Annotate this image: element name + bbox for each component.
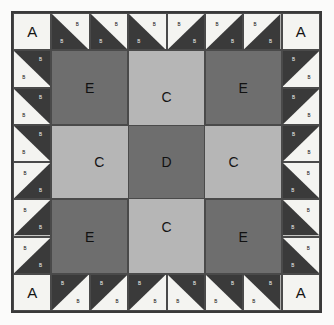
quilt-block-diagram: CCCCDAEBBBBBBBBBBBBAEBBBBBBBBBBBBAEBBBBB… [11,11,322,313]
hst-label-dark: B [100,281,103,286]
hst-label-dark: B [292,95,295,100]
hst-top-left-col-1: BB [13,50,51,87]
hst-label-dark: B [99,39,102,44]
hst-bottom-left-col-3: BB [13,237,51,274]
hst-label-light: B [76,22,79,27]
hst-label-dark: B [193,281,196,286]
hst-top-left-row-3: BB [128,13,166,50]
hst-bottom-right-row-3: BB [243,274,281,311]
patch-label: E [239,81,248,95]
hst-bottom-right-row-2: BB [205,274,243,311]
patch-label: E [85,81,94,95]
patch-square-a-top-left: A [13,13,51,50]
hst-label-dark: B [291,188,294,193]
hst-label-dark: B [61,281,64,286]
hst-bottom-right-col-3: BB [282,237,320,274]
hst-top-right-col-1: BB [282,50,320,87]
hst-label-light: B [24,171,27,176]
hst-label-light: B [114,22,117,27]
patch-square-e-top-right: E [205,50,282,125]
patch-label: E [85,230,94,244]
patch-label: A [296,285,306,300]
hst-bottom-right-row-1: BB [167,274,205,311]
hst-label-light: B [115,299,118,304]
hst-top-right-col-2: BB [282,88,320,125]
hst-label-light: B [22,150,25,155]
patch-label: C [161,220,171,234]
hst-label-light: B [252,299,255,304]
hst-bottom-right-col-1: BB [282,162,320,199]
hst-bottom-left-col-1: BB [13,162,51,199]
hst-label-dark: B [39,95,42,100]
hst-label-dark: B [193,39,196,44]
hst-top-right-row-3: BB [243,13,281,50]
patch-square-a-top-right: A [282,13,320,50]
hst-label-light: B [307,150,310,155]
hst-label-light: B [306,245,309,250]
hst-label-dark: B [39,132,42,137]
hst-label-dark: B [231,39,234,44]
hst-bottom-left-col-2: BB [13,199,51,236]
hst-top-left-col-3: BB [13,125,51,162]
hst-label-light: B [77,299,80,304]
patch-square-a-bottom-left: A [13,274,51,311]
patch-square-a-bottom-right: A [282,274,320,311]
hst-label-light: B [306,208,309,213]
hst-label-dark: B [269,39,272,44]
hst-label-dark: B [291,226,294,231]
patch-square-e-bottom-left: E [51,199,128,274]
hst-label-light: B [214,299,217,304]
hst-label-light: B [176,299,179,304]
hst-label-light: B [22,75,25,80]
patch-label: C [161,90,171,104]
patch-square-e-bottom-right: E [205,199,282,274]
patch-square-d-center: D [128,125,205,200]
hst-label-dark: B [231,281,234,286]
patch-label: D [161,155,171,169]
hst-label-light: B [24,208,27,213]
patch-label: A [27,24,37,39]
hst-bottom-left-row-1: BB [51,274,89,311]
patch-square-e-top-left: E [51,50,128,125]
patch-label: E [239,230,248,244]
hst-top-left-row-2: BB [90,13,128,50]
hst-label-dark: B [137,39,140,44]
hst-label-light: B [307,112,310,117]
hst-label-dark: B [39,58,42,63]
hst-label-light: B [22,112,25,117]
hst-top-left-col-2: BB [13,88,51,125]
hst-bottom-left-row-3: BB [128,274,166,311]
hst-label-light: B [154,299,157,304]
hst-label-dark: B [138,281,141,286]
hst-bottom-right-col-2: BB [282,199,320,236]
hst-label-light: B [306,171,309,176]
hst-label-light: B [177,22,180,27]
hst-top-right-row-1: BB [167,13,205,50]
hst-bottom-left-row-2: BB [90,274,128,311]
hst-label-dark: B [39,188,42,193]
hst-label-dark: B [61,39,64,44]
patch-label: A [296,24,306,39]
hst-label-light: B [307,75,310,80]
hst-label-light: B [153,22,156,27]
hst-label-dark: B [292,132,295,137]
patch-label: C [229,155,239,169]
hst-label-dark: B [292,58,295,63]
hst-label-dark: B [269,281,272,286]
hst-label-light: B [254,22,257,27]
hst-top-right-col-3: BB [282,125,320,162]
hst-top-right-row-2: BB [205,13,243,50]
patch-label: A [27,285,37,300]
hst-label-dark: B [39,226,42,231]
hst-label-dark: B [39,263,42,268]
hst-label-dark: B [291,263,294,268]
hst-top-left-row-1: BB [51,13,89,50]
patch-label: C [94,155,104,169]
hst-label-light: B [215,22,218,27]
hst-label-light: B [24,245,27,250]
